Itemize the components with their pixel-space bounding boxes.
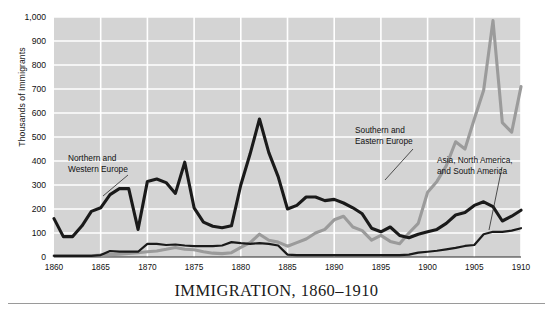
annotation-southern-eastern-europe: Southern and Eastern Europe xyxy=(355,125,413,146)
annotation-asia-north-south-america: Asia, North America, and South America xyxy=(437,155,513,176)
title-underline xyxy=(8,303,545,304)
immigration-line-chart: Thousands of Immigrants 0100200300400500… xyxy=(0,0,553,310)
annotation-northern-western-europe: Northern and Western Europe xyxy=(68,153,128,174)
chart-title: IMMIGRATION, 1860–1910 xyxy=(0,281,553,301)
